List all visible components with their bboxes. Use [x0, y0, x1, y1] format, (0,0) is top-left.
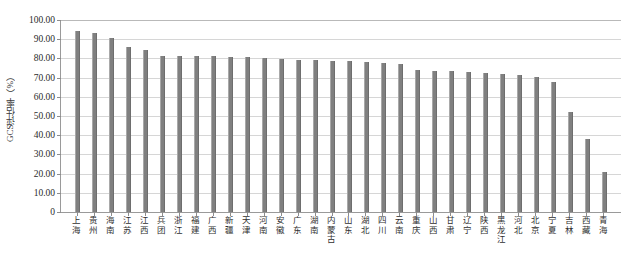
y-axis-tick-label: 60.00 [34, 92, 55, 102]
x-axis-tick-label: 宁夏 [546, 216, 558, 235]
x-axis-tick-label: 辽宁 [461, 216, 473, 235]
x-axis-tick-label: 广西 [207, 216, 219, 235]
x-axis-tick-label: 江苏 [122, 216, 134, 235]
bar [279, 59, 284, 212]
bar [160, 56, 165, 212]
bar [364, 62, 369, 212]
bar-series [61, 20, 621, 212]
y-axis-title-label: GCS评估率（%） [3, 72, 16, 142]
bar [415, 70, 420, 212]
y-axis-tick-label: 20.00 [34, 169, 55, 179]
x-axis-tick-label: 浙江 [173, 216, 185, 235]
bar [211, 56, 216, 212]
x-axis-tick-label: 广东 [292, 216, 304, 235]
bar [126, 47, 131, 212]
y-axis-tick-label: 70.00 [34, 73, 55, 83]
bar [330, 61, 335, 212]
bar [551, 82, 556, 212]
x-axis-tick-label: 江西 [139, 216, 151, 235]
y-axis-title: GCS评估率（%） [0, 0, 18, 215]
bar [177, 56, 182, 212]
x-axis-tick-label: 重庆 [410, 216, 422, 235]
x-axis-tick-label: 青海 [597, 216, 609, 235]
x-axis-labels: 上海贵州海南江苏江西兵团浙江福建广西新疆天津河南安徽广东湖南内蒙古山东湖北四川云… [60, 216, 620, 260]
x-axis-tick-label: 云南 [393, 216, 405, 235]
y-axis-tick-label: 50.00 [34, 111, 55, 121]
y-axis-tick-label: 0 [50, 207, 55, 217]
x-axis-tick-label: 河北 [512, 216, 524, 235]
bar [228, 57, 233, 212]
y-axis-tick-label: 30.00 [34, 149, 55, 159]
bar [534, 77, 539, 212]
x-axis-tick-label: 河南 [258, 216, 270, 235]
x-axis-tick-label: 海南 [105, 216, 117, 235]
x-axis-tick-label: 安徽 [275, 216, 287, 235]
bar [585, 139, 590, 212]
bar [398, 64, 403, 212]
x-axis-tick-label: 上海 [71, 216, 83, 235]
bar [75, 31, 80, 212]
x-axis-tick-label: 贵州 [88, 216, 100, 235]
bar [296, 60, 301, 212]
bar [347, 61, 352, 212]
x-axis-tick-label: 西藏 [580, 216, 592, 235]
plot-area: 100.0090.0080.0070.0060.0050.0040.0030.0… [60, 20, 621, 213]
x-axis-tick-label: 兵团 [156, 216, 168, 235]
y-axis-tick-label: 90.00 [34, 34, 55, 44]
bar [262, 58, 267, 212]
x-axis-tick-label: 湖北 [359, 216, 371, 235]
x-axis-tick-label: 天津 [241, 216, 253, 235]
x-axis-tick-label: 福建 [190, 216, 202, 235]
x-axis-tick-label: 陕西 [478, 216, 490, 235]
x-axis-tick-label: 山东 [342, 216, 354, 235]
x-axis-tick-label: 新疆 [224, 216, 236, 235]
y-axis-tick-label: 40.00 [34, 130, 55, 140]
bar [568, 112, 573, 212]
y-axis-tick-label: 100.00 [29, 15, 55, 25]
x-axis-tick-label: 山西 [427, 216, 439, 235]
bar [602, 172, 607, 212]
bar [92, 33, 97, 212]
y-axis-tick-label: 10.00 [34, 188, 55, 198]
bar [194, 56, 199, 212]
y-axis-tick-label: 80.00 [34, 53, 55, 63]
bar [449, 71, 454, 212]
bar [517, 75, 522, 212]
bar [466, 72, 471, 212]
bar [432, 71, 437, 212]
gcs-assessment-rate-bar-chart: GCS评估率（%） 100.0090.0080.0070.0060.0050.0… [0, 0, 628, 260]
bar [483, 73, 488, 212]
x-axis-tick-label: 北京 [529, 216, 541, 235]
x-axis-tick-label: 湖南 [309, 216, 321, 235]
bar [143, 50, 148, 212]
x-axis-tick-label: 黑龙江 [495, 216, 507, 245]
bar [313, 60, 318, 212]
bar [500, 74, 505, 212]
x-axis-tick-label: 甘肃 [444, 216, 456, 235]
x-axis-tick-label: 吉林 [563, 216, 575, 235]
bar [381, 63, 386, 212]
x-axis-tick-label: 四川 [376, 216, 388, 235]
bar [109, 38, 114, 212]
bar [245, 57, 250, 212]
x-axis-tick-label: 内蒙古 [326, 216, 338, 245]
